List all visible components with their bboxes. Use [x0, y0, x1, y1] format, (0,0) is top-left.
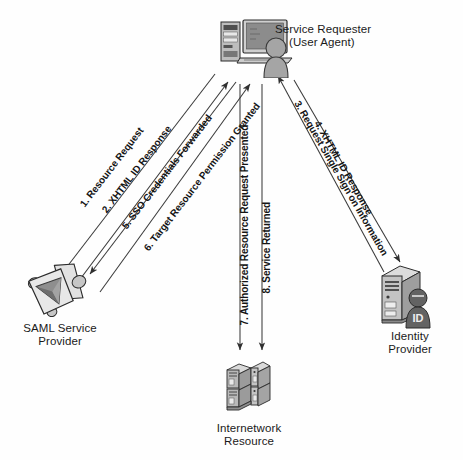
- server-tower-with-id-badge-icon: ID: [378, 262, 436, 332]
- label-internetwork-resource-line2: Resource: [190, 435, 308, 448]
- label-saml-service-provider: SAML Service Provider: [0, 322, 120, 348]
- label-identity-provider-line1: Identity: [360, 330, 460, 343]
- id-badge-text: ID: [413, 312, 424, 324]
- node-identity-provider[interactable]: ID: [378, 262, 436, 332]
- flow-label-7: 7. Authorized Resource Request Presented: [239, 125, 250, 326]
- saml-service-provider-icon: [22, 258, 96, 320]
- label-saml-service-provider-line1: SAML Service: [0, 322, 120, 335]
- saml-sso-flow-diagram: Service Requester (User Agent) SAML Serv…: [0, 0, 463, 460]
- node-saml-service-provider[interactable]: [22, 258, 96, 320]
- label-service-requester-line1: Service Requester: [275, 23, 371, 36]
- label-internetwork-resource: Internetwork Resource: [190, 422, 308, 448]
- label-identity-provider: Identity Provider: [360, 330, 460, 356]
- label-internetwork-resource-line1: Internetwork: [190, 422, 308, 435]
- label-service-requester: Service Requester (User Agent): [275, 23, 371, 49]
- node-internetwork-resource[interactable]: [222, 358, 274, 420]
- label-saml-service-provider-line2: Provider: [0, 335, 120, 348]
- server-rack-icon: [222, 358, 274, 420]
- label-identity-provider-line2: Provider: [360, 343, 460, 356]
- label-service-requester-line2: (User Agent): [275, 36, 371, 49]
- flow-label-8: 8. Service Returned: [261, 202, 272, 293]
